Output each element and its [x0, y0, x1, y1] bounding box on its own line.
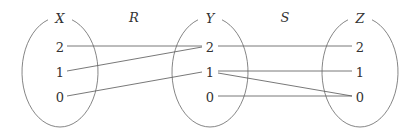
relation-composition-diagram: X210Y210Z210 RS — [0, 0, 419, 134]
set-y-element-2: 2 — [206, 40, 214, 55]
edge-r-X0-Y1 — [67, 72, 202, 96]
set-x-element-2: 2 — [56, 40, 64, 55]
set-x-name: X — [54, 11, 65, 26]
set-y-name: Y — [206, 11, 216, 26]
set-y: Y210 — [172, 11, 248, 127]
set-y-element-0: 0 — [206, 90, 214, 105]
set-z-element-2: 2 — [356, 40, 364, 55]
set-x: X210 — [22, 11, 98, 127]
set-x-element-0: 0 — [56, 90, 64, 105]
set-z-element-1: 1 — [356, 65, 364, 80]
relation-label-r: R — [128, 10, 139, 25]
set-z-name: Z — [354, 11, 365, 26]
set-x-element-1: 1 — [56, 65, 64, 80]
set-z-element-0: 0 — [356, 90, 364, 105]
edge-r-X1-Y2 — [67, 47, 202, 71]
set-y-element-1: 1 — [206, 65, 214, 80]
relation-label-s: S — [281, 10, 290, 25]
set-z: Z210 — [322, 11, 398, 127]
edge-s-Y1-Z0 — [218, 73, 352, 96]
